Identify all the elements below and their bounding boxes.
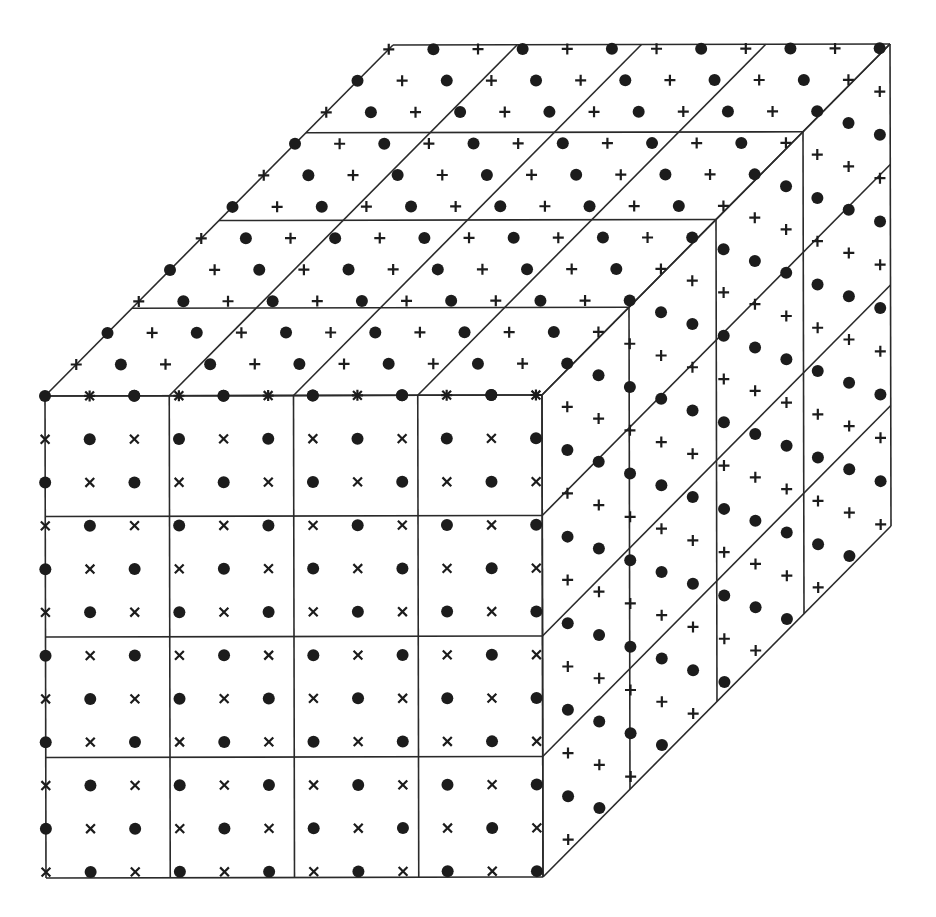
dot-site-icon <box>427 43 439 55</box>
plus-site-icon <box>361 201 372 212</box>
cross-site-icon <box>398 780 407 789</box>
right-vertical-line <box>890 44 891 526</box>
dot-site-icon <box>874 389 886 401</box>
dot-site-icon <box>356 295 368 307</box>
dot-site-icon <box>302 169 314 181</box>
dot-site-icon <box>84 693 96 705</box>
dot-site-icon <box>102 327 114 339</box>
cross-site-icon <box>220 781 229 790</box>
plus-site-icon <box>589 106 600 117</box>
dot-site-icon <box>619 74 631 86</box>
plus-site-icon <box>875 432 886 443</box>
plus-site-icon <box>629 201 640 212</box>
dot-site-icon <box>530 605 542 617</box>
front-vertical-line <box>418 395 419 877</box>
dot-site-icon <box>174 693 186 705</box>
dot-site-icon <box>173 520 185 532</box>
plus-site-icon <box>593 586 604 597</box>
dot-site-icon <box>548 326 560 338</box>
dot-site-icon <box>240 232 252 244</box>
plus-site-icon <box>513 138 524 149</box>
plus-site-icon <box>812 409 823 420</box>
plus-site-icon <box>593 326 604 337</box>
plus-site-icon <box>437 170 448 181</box>
dot-site-icon <box>606 43 618 55</box>
dot-site-icon <box>396 476 408 488</box>
plus-site-icon <box>298 264 309 275</box>
dot-site-icon <box>173 433 185 445</box>
dot-site-icon <box>656 566 668 578</box>
cross-site-icon <box>175 824 184 833</box>
cross-site-icon <box>398 694 407 703</box>
dot-site-icon <box>441 75 453 87</box>
dot-site-icon <box>812 278 824 290</box>
cross-site-icon <box>175 564 184 573</box>
dot-site-icon <box>624 381 636 393</box>
plus-site-icon <box>486 75 497 86</box>
dot-site-icon <box>174 779 186 791</box>
cross-site-icon <box>532 650 541 659</box>
cross-site-icon <box>442 477 451 486</box>
plus-site-icon <box>566 264 577 275</box>
plus-site-icon <box>450 201 461 212</box>
plus-site-icon <box>147 327 158 338</box>
top-horizontal-line <box>393 44 890 45</box>
dot-site-icon <box>784 42 796 54</box>
dot-site-icon <box>874 302 886 314</box>
plus-site-icon <box>718 374 729 385</box>
dot-site-icon <box>289 138 301 150</box>
plus-site-icon <box>499 106 510 117</box>
cross-site-icon <box>532 564 541 573</box>
dot-site-icon <box>485 389 497 401</box>
plus-site-icon <box>750 472 761 483</box>
dot-site-icon <box>521 263 533 275</box>
plus-site-icon <box>477 264 488 275</box>
dot-site-icon <box>84 520 96 532</box>
plus-site-icon <box>781 397 792 408</box>
plus-site-icon <box>874 86 885 97</box>
plus-site-icon <box>843 161 854 172</box>
cross-site-icon <box>487 521 496 530</box>
dot-site-icon <box>472 358 484 370</box>
plus-site-icon <box>624 338 635 349</box>
cross-site-icon <box>130 694 139 703</box>
dot-site-icon <box>308 736 320 748</box>
plus-site-icon <box>562 574 573 585</box>
dot-site-icon <box>486 649 498 661</box>
dot-site-icon <box>597 232 609 244</box>
dot-site-icon <box>610 263 622 275</box>
dot-site-icon <box>267 295 279 307</box>
dot-site-icon <box>561 357 573 369</box>
dot-site-icon <box>557 137 569 149</box>
cross-site-icon <box>488 867 497 876</box>
dot-site-icon <box>530 74 542 86</box>
dot-site-icon <box>656 652 668 664</box>
dot-site-icon <box>633 106 645 118</box>
plus-site-icon <box>844 421 855 432</box>
plus-site-icon <box>875 519 886 530</box>
dot-site-icon <box>253 264 265 276</box>
dot-site-icon <box>718 243 730 255</box>
dot-site-icon <box>749 515 761 527</box>
dot-site-icon <box>561 444 573 456</box>
dot-site-icon <box>749 255 761 267</box>
cross-site-icon <box>354 651 363 660</box>
dot-site-icon <box>687 491 699 503</box>
cross-site-icon <box>264 651 273 660</box>
dot-site-icon <box>508 232 520 244</box>
dot-site-icon <box>352 75 364 87</box>
dot-site-icon <box>218 563 230 575</box>
plus-site-icon <box>719 547 730 558</box>
cross-site-icon <box>487 607 496 616</box>
dot-site-icon <box>625 727 637 739</box>
dot-site-icon <box>811 192 823 204</box>
cross-site-icon <box>175 478 184 487</box>
plus-site-icon <box>249 359 260 370</box>
cross-site-icon <box>398 434 407 443</box>
dot-site-icon <box>40 823 52 835</box>
plus-site-icon <box>843 74 854 85</box>
cross-site-icon <box>399 867 408 876</box>
plus-site-icon <box>602 138 613 149</box>
dot-site-icon <box>593 716 605 728</box>
dot-site-icon <box>392 169 404 181</box>
